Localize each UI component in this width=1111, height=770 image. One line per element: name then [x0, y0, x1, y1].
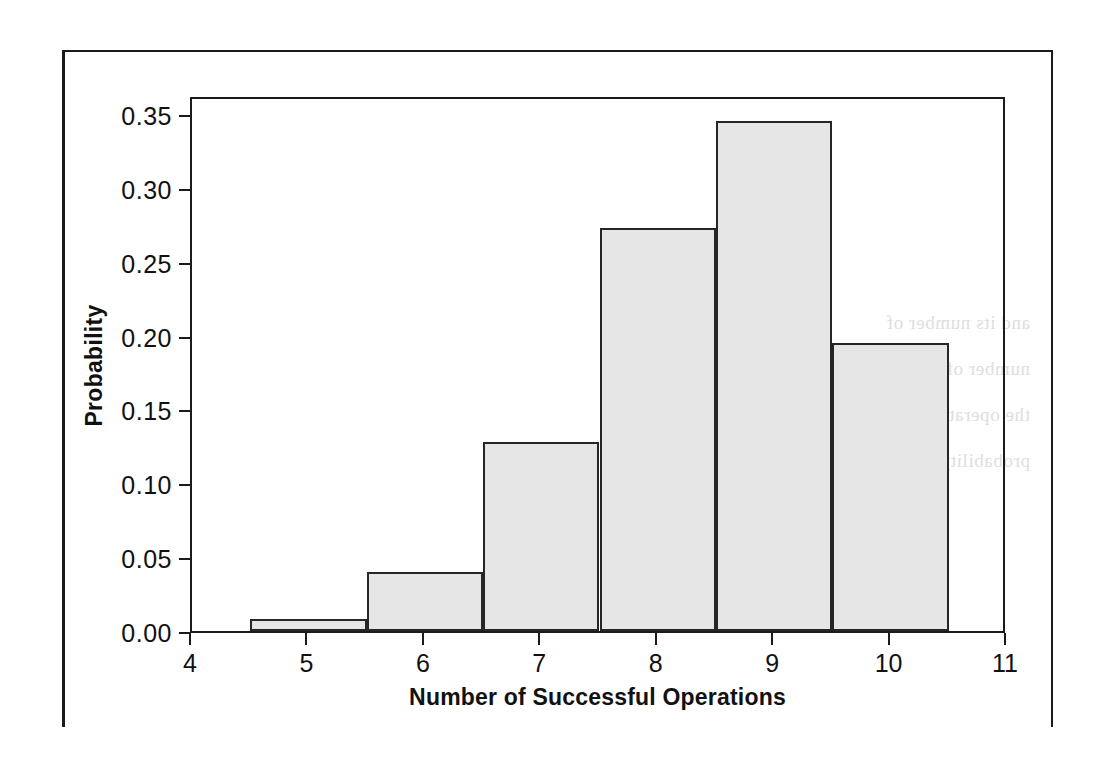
x-tick-mark	[888, 633, 890, 645]
y-tick-label: 0.35	[121, 101, 172, 130]
x-tick-mark	[538, 633, 540, 645]
plot-area	[192, 99, 1003, 631]
y-tick-label: 0.05	[121, 545, 172, 574]
plot-frame	[190, 97, 1005, 633]
x-tick-label: 8	[649, 649, 663, 678]
y-tick-label: 0.25	[121, 249, 172, 278]
x-tick-label: 4	[183, 649, 197, 678]
x-tick-mark	[422, 633, 424, 645]
x-axis-title: Number of Successful Operations	[190, 684, 1005, 711]
x-tick-mark	[305, 633, 307, 645]
y-tick-label: 0.30	[121, 175, 172, 204]
x-tick-label: 11	[992, 649, 1018, 678]
bar	[716, 121, 832, 631]
y-tick-mark	[179, 189, 190, 191]
bar	[367, 572, 483, 631]
x-tick-mark	[1004, 633, 1006, 645]
y-tick-label: 0.00	[121, 619, 172, 648]
y-tick-mark	[179, 115, 190, 117]
y-tick-label: 0.10	[121, 471, 172, 500]
x-tick-mark	[771, 633, 773, 645]
bar	[600, 228, 716, 631]
bar	[832, 343, 948, 631]
y-axis-ticks: 0.000.050.100.150.200.250.300.35	[0, 97, 190, 633]
bar	[483, 442, 599, 631]
y-tick-mark	[179, 263, 190, 265]
x-tick-label: 6	[416, 649, 430, 678]
y-tick-mark	[179, 337, 190, 339]
y-tick-label: 0.20	[121, 323, 172, 352]
y-tick-mark	[179, 484, 190, 486]
bar	[250, 619, 366, 631]
x-tick-label: 10	[875, 649, 903, 678]
y-tick-mark	[179, 410, 190, 412]
x-tick-mark	[189, 633, 191, 645]
y-tick-label: 0.15	[121, 397, 172, 426]
x-tick-mark	[655, 633, 657, 645]
x-tick-label: 5	[299, 649, 313, 678]
y-tick-mark	[179, 558, 190, 560]
x-tick-label: 9	[765, 649, 779, 678]
x-tick-label: 7	[532, 649, 546, 678]
